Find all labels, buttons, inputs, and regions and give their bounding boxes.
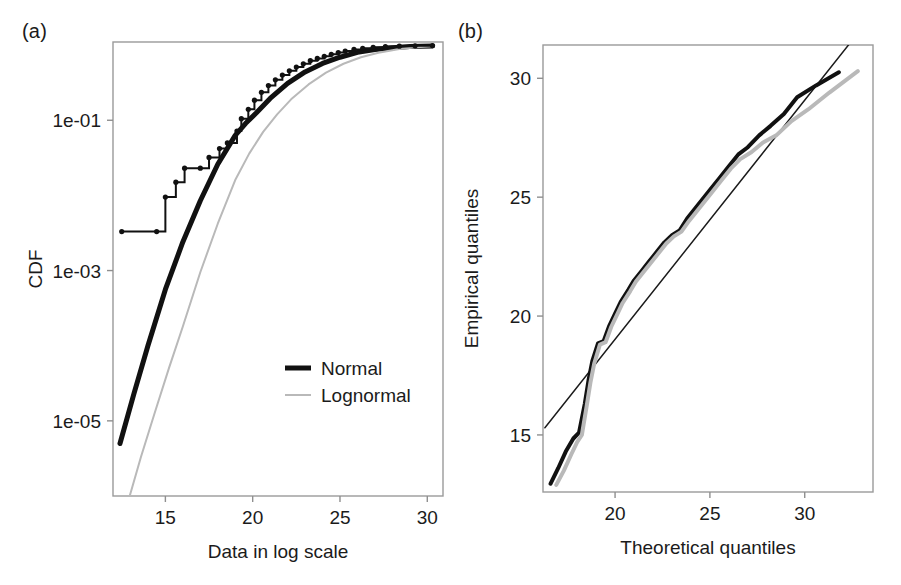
- ecdf-point: [294, 64, 299, 69]
- ecdf-point: [273, 77, 278, 82]
- plot-frame: [543, 45, 873, 492]
- ecdf-point: [266, 83, 271, 88]
- ecdf-point: [163, 194, 168, 199]
- series-lognormal: [556, 71, 858, 485]
- ecdf-point: [252, 98, 257, 103]
- ecdf-point: [239, 116, 244, 121]
- ecdf-point: [371, 45, 376, 50]
- y-tick-label: 15: [510, 425, 531, 446]
- ecdf-point: [383, 44, 388, 49]
- ecdf-point: [308, 58, 313, 63]
- x-tick-label: 30: [417, 507, 438, 528]
- x-tick-label: 30: [794, 503, 815, 524]
- ecdf-point: [182, 166, 187, 171]
- ecdf-point: [225, 140, 230, 145]
- ecdf-point: [430, 43, 435, 48]
- ecdf-point: [259, 90, 264, 95]
- x-tick-label: 20: [604, 503, 625, 524]
- ecdf-point: [287, 68, 292, 73]
- ecdf-point: [315, 56, 320, 61]
- ecdf-point: [280, 72, 285, 77]
- ecdf-point: [322, 54, 327, 59]
- series-normal: [120, 46, 433, 444]
- y-tick-label: 30: [510, 68, 531, 89]
- ecdf-point: [351, 47, 356, 52]
- y-tick-label: 1e-05: [52, 411, 101, 432]
- cdf-chart: 152025301e-011e-031e-05Data in log scale…: [0, 0, 450, 585]
- y-tick-label: 25: [510, 187, 531, 208]
- legend-label: Normal: [321, 358, 382, 379]
- ecdf-point: [329, 52, 334, 57]
- series-empirical-cdf: [122, 46, 433, 232]
- legend-label: Lognormal: [321, 385, 411, 406]
- cdf-panel: (a) 152025301e-011e-031e-05Data in log s…: [0, 0, 450, 585]
- ecdf-point: [412, 43, 417, 48]
- series-lognormal: [129, 46, 433, 499]
- ecdf-point: [234, 128, 239, 133]
- y-axis-title: Empirical quantiles: [461, 189, 482, 348]
- qq-panel: (b) 20253015202530Theoretical quantilesE…: [450, 0, 901, 585]
- ecdf-point: [360, 46, 365, 51]
- series-group: [119, 43, 435, 499]
- ecdf-point: [301, 61, 306, 66]
- x-tick-label: 25: [699, 503, 720, 524]
- plot-frame: [113, 42, 443, 496]
- y-tick-label: 1e-01: [52, 110, 101, 131]
- x-axis-title: Theoretical quantiles: [620, 537, 795, 558]
- y-tick-label: 1e-03: [52, 261, 101, 282]
- x-tick-label: 25: [329, 507, 350, 528]
- y-axis-title: CDF: [25, 249, 46, 288]
- qq-chart: 20253015202530Theoretical quantilesEmpir…: [450, 0, 901, 585]
- ecdf-point: [217, 146, 222, 151]
- y-tick-label: 20: [510, 306, 531, 327]
- ecdf-point: [198, 166, 203, 171]
- ecdf-point: [173, 180, 178, 185]
- ecdf-point: [343, 48, 348, 53]
- ecdf-point: [206, 155, 211, 160]
- series-group: [545, 14, 873, 485]
- series-normal: [551, 72, 839, 483]
- figure-container: (a) 152025301e-011e-031e-05Data in log s…: [0, 0, 901, 585]
- x-tick-label: 15: [155, 507, 176, 528]
- ecdf-point: [336, 50, 341, 55]
- ecdf-point: [119, 229, 124, 234]
- ecdf-point: [246, 107, 251, 112]
- x-axis-title: Data in log scale: [208, 541, 348, 562]
- ecdf-point: [397, 44, 402, 49]
- x-tick-label: 20: [242, 507, 263, 528]
- ecdf-point: [154, 229, 159, 234]
